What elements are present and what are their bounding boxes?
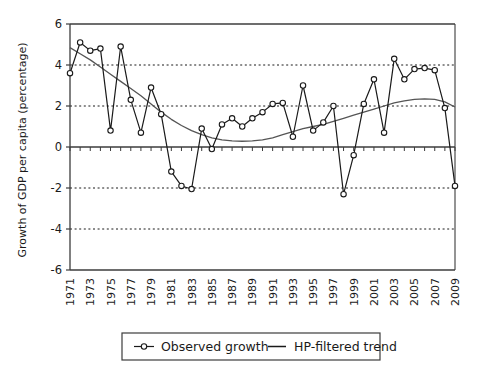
data-point-marker <box>341 191 346 196</box>
data-point-marker <box>88 48 93 53</box>
data-point-marker <box>402 77 407 82</box>
x-tick-label: 1973 <box>84 278 97 306</box>
observed-line <box>70 42 455 194</box>
x-tick-label: 2005 <box>408 278 421 306</box>
x-tick-label: 2009 <box>449 278 462 306</box>
data-point-marker <box>128 97 133 102</box>
y-axis-label: Growth of GDP per capita (percentage) <box>16 43 29 258</box>
data-point-marker <box>452 183 457 188</box>
data-point-marker <box>371 77 376 82</box>
data-point-marker <box>280 100 285 105</box>
chart-legend: Observed growthHP-filtered trend <box>122 333 397 360</box>
x-tick-label: 1985 <box>206 278 219 306</box>
x-tick-label: 1979 <box>145 278 158 306</box>
data-point-marker <box>67 71 72 76</box>
data-point-marker <box>77 40 82 45</box>
x-tick-label: 2001 <box>368 278 381 306</box>
x-tick-label: 1999 <box>348 278 361 306</box>
data-point-marker <box>331 103 336 108</box>
data-point-marker <box>270 101 275 106</box>
data-point-marker <box>138 130 143 135</box>
y-tick-label: -2 <box>51 181 62 195</box>
data-point-marker <box>179 183 184 188</box>
data-point-marker <box>381 130 386 135</box>
chart-figure: 6420-2-4-6 19711973197519771979198119831… <box>0 0 502 381</box>
y-tick-label: 4 <box>55 58 62 72</box>
y-axis-title: Growth of GDP per capita (percentage) <box>16 43 29 258</box>
data-point-marker <box>260 109 265 114</box>
data-point-marker <box>250 116 255 121</box>
data-point-marker <box>351 153 356 158</box>
data-point-marker <box>432 67 437 72</box>
data-point-marker <box>98 46 103 51</box>
y-tick-label: -6 <box>51 263 62 277</box>
y-tick-label: -4 <box>51 222 62 236</box>
legend-marker-observed-growth <box>141 344 146 349</box>
y-tick-label: 6 <box>55 17 62 31</box>
data-point-marker <box>412 66 417 71</box>
y-tick-label: 0 <box>55 140 62 154</box>
data-point-marker <box>229 116 234 121</box>
y-axis: 6420-2-4-6 <box>51 17 70 277</box>
data-point-marker <box>209 146 214 151</box>
data-point-marker <box>290 134 295 139</box>
x-tick-label: 1995 <box>307 278 320 306</box>
x-tick-label: 1997 <box>327 278 340 306</box>
x-tick-label: 1971 <box>64 278 77 306</box>
x-tick-label: 1981 <box>165 278 178 306</box>
legend-label-hp-filtered-trend: HP-filtered trend <box>294 339 397 354</box>
x-tick-label: 1983 <box>186 278 199 306</box>
data-point-marker <box>118 44 123 49</box>
x-tick-label: 1989 <box>246 278 259 306</box>
legend-label-observed-growth: Observed growth <box>161 339 269 354</box>
data-point-marker <box>148 85 153 90</box>
x-tick-label: 2007 <box>429 278 442 306</box>
trend-line <box>70 48 455 142</box>
series-hp-filtered-trend <box>70 48 455 142</box>
data-point-marker <box>321 120 326 125</box>
x-tick-label: 1977 <box>125 278 138 306</box>
data-point-marker <box>189 186 194 191</box>
data-point-marker <box>169 169 174 174</box>
series-observed-growth <box>67 40 457 197</box>
x-axis: 1971197319751977197919811983198519871989… <box>64 147 462 306</box>
data-point-marker <box>392 56 397 61</box>
data-point-marker <box>108 128 113 133</box>
data-point-marker <box>300 83 305 88</box>
x-tick-label: 1993 <box>287 278 300 306</box>
data-point-marker <box>310 128 315 133</box>
y-tick-label: 2 <box>55 99 62 113</box>
gdp-growth-chart: 6420-2-4-6 19711973197519771979198119831… <box>0 0 502 381</box>
data-point-marker <box>219 122 224 127</box>
data-point-marker <box>240 124 245 129</box>
data-point-marker <box>199 126 204 131</box>
x-tick-label: 1975 <box>105 278 118 306</box>
x-tick-label: 1987 <box>226 278 239 306</box>
data-point-marker <box>361 101 366 106</box>
x-tick-label: 2003 <box>388 278 401 306</box>
x-tick-label: 1991 <box>267 278 280 306</box>
data-point-marker <box>422 65 427 70</box>
data-point-marker <box>442 105 447 110</box>
data-point-marker <box>158 112 163 117</box>
